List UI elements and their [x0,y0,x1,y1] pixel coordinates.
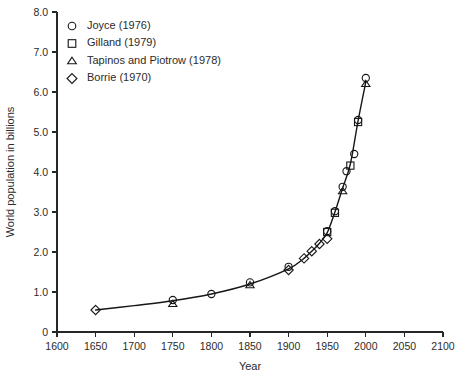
x-tick-label: 2050 [393,340,417,352]
x-tick-label: 1750 [161,340,185,352]
legend-label: Gilland (1979) [87,36,156,48]
y-tick-label: 7.0 [33,46,48,58]
world-population-chart: 01.02.03.04.05.06.07.08.0 16001650170017… [0,0,465,380]
marker-circle [68,22,76,30]
x-tick-label: 1950 [316,340,340,352]
y-tick-label: 1.0 [33,286,48,298]
legend-entry: Joyce (1976) [68,19,150,31]
series-diamond [91,234,332,315]
y-axis-title: World population in billions [4,106,16,237]
population-trend-curve [96,82,366,310]
legend-entry: Gilland (1979) [68,36,156,48]
y-tick-label: 2.0 [33,246,48,258]
y-tick-label: 5.0 [33,126,48,138]
legend-label: Joyce (1976) [87,19,151,31]
y-tick-label: 8.0 [33,6,48,18]
y-tick-label: 0 [42,326,48,338]
y-tick-label: 6.0 [33,86,48,98]
series-triangle [169,80,370,306]
x-tick-label: 1650 [84,340,108,352]
y-tick-label: 3.0 [33,206,48,218]
x-tick-label: 1600 [45,340,69,352]
x-tick-label: 1700 [123,340,147,352]
x-tick-label: 1800 [200,340,224,352]
x-tick-label: 1850 [238,340,262,352]
y-axis-ticks: 01.02.03.04.05.06.07.08.0 [33,6,57,338]
x-tick-label: 2000 [354,340,378,352]
marker-square [68,40,76,48]
x-axis-title: Year [239,360,262,372]
chart-canvas: 01.02.03.04.05.06.07.08.0 16001650170017… [0,0,465,380]
y-tick-label: 4.0 [33,166,48,178]
marker-triangle [68,57,77,64]
series-circle [169,74,369,303]
x-axis-ticks: 1600165017001750180018501900195020002050… [45,332,455,352]
marker-diamond [67,74,77,84]
x-tick-label: 1900 [277,340,301,352]
legend-label: Tapinos and Piotrow (1978) [87,54,221,66]
legend-label: Borrie (1970) [87,71,151,83]
x-tick-label: 2100 [431,340,455,352]
data-point-markers [91,74,370,314]
legend-entry: Tapinos and Piotrow (1978) [68,54,221,66]
chart-legend: Joyce (1976)Gilland (1979)Tapinos and Pi… [67,19,221,84]
legend-entry: Borrie (1970) [67,71,151,83]
